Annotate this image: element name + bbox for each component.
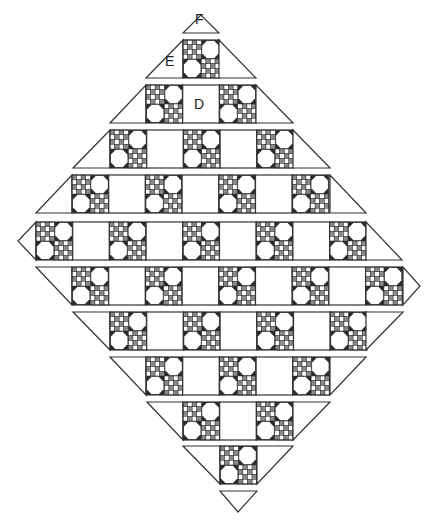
side-point-right [403,267,420,305]
pieced-block [330,222,367,260]
pieced-block [366,267,403,305]
pieced-block [257,130,294,168]
side-triangle-left [73,130,110,168]
side-triangle-right [293,402,330,440]
side-point-left [18,222,36,260]
pieced-block [183,40,220,78]
pieced-block [293,357,330,395]
setting-square [182,175,219,213]
side-triangle-right [330,357,366,395]
side-triangle-right [293,130,330,168]
setting-square [73,222,110,260]
side-triangle-left [110,85,146,123]
pieced-block [146,85,183,123]
pieced-block [256,402,293,440]
pieced-block [219,357,256,395]
corner-bottom [220,491,257,512]
row-8 [73,312,403,350]
setting-square [220,130,257,168]
label-d: D [194,97,204,111]
setting-square [183,357,220,395]
row-6 [18,222,402,260]
pieced-block [330,312,367,350]
setting-square [220,312,257,350]
side-triangle-left [110,357,146,395]
side-triangle-right [257,446,293,484]
pieced-block [72,267,109,305]
pieced-block [145,175,182,213]
setting-square [293,222,330,260]
side-triangle-right [366,312,403,350]
pieced-block [219,85,256,123]
side-triangle-right [256,85,293,123]
side-triangle-left [147,402,183,440]
setting-square [294,312,331,350]
pieced-block [110,130,147,168]
pieced-block [110,312,147,350]
setting-square [109,175,146,213]
pieced-block [219,175,256,213]
row-9 [110,357,366,395]
row-10 [147,402,330,440]
label-f: F [195,12,204,26]
setting-square [147,312,184,350]
pieced-block [36,222,73,260]
setting-square [147,130,184,168]
pieced-block [257,312,294,350]
pieced-block [292,175,329,213]
pieced-block [146,357,183,395]
pieced-block [183,402,220,440]
pieced-block [183,312,220,350]
side-triangle-right [366,222,402,260]
pieced-block [145,267,182,305]
side-triangle-right [330,175,366,213]
row-5 [36,175,366,213]
pieced-block [183,130,220,168]
row-7 [36,267,420,305]
pieced-block [256,222,293,260]
row-E [146,40,256,78]
pieced-block [183,222,220,260]
setting-square [256,175,293,213]
label-e: E [165,54,174,68]
side-triangle-left [183,446,220,484]
pieced-block [219,267,256,305]
setting-square [182,267,219,305]
pieced-block [292,267,329,305]
setting-square [220,222,257,260]
pieced-block [72,175,109,213]
pieced-block [109,222,146,260]
quilt-diagram [0,0,435,527]
side-triangle-left [36,267,72,305]
setting-square [256,267,293,305]
setting-square [146,222,183,260]
setting-square [220,402,257,440]
setting-square [256,357,293,395]
side-triangle-left [73,312,110,350]
row-4 [73,130,330,168]
side-triangle-left [36,175,72,213]
setting-square [329,267,366,305]
pieced-block [220,446,257,484]
row-11 [183,446,293,484]
side-triangle-right [219,40,256,78]
setting-square [109,267,146,305]
